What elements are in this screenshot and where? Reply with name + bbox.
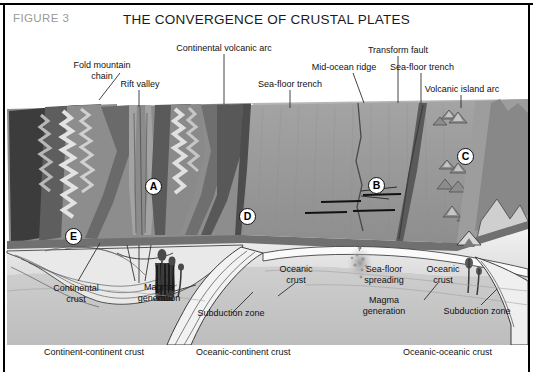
label-fold-mountain-chain: Fold mountain chain [62, 60, 142, 81]
label-transform-fault: Transform fault [348, 45, 448, 56]
label-volcanic-island-arc: Volcanic island arc [404, 84, 520, 95]
label-magma-generation-right: Magma generation [350, 295, 418, 316]
label-continent-continent-crust: Continent-continent crust [44, 347, 144, 358]
figure-title: THE CONVERGENCE OF CRUSTAL PLATES [0, 12, 533, 27]
label-sea-floor-spreading: Sea-floor spreading [350, 264, 418, 285]
label-rift-valley: Rift valley [109, 79, 171, 90]
label-oceanic-continent-crust: Oceanic-continent crust [196, 347, 291, 358]
marker-b[interactable]: B [368, 177, 385, 194]
label-oceanic-oceanic-crust: Oceanic-oceanic crust [403, 347, 492, 358]
label-continental-crust: Continental crust [38, 283, 114, 304]
label-subduction-zone-left: Subduction zone [177, 308, 285, 319]
marker-c[interactable]: C [457, 148, 474, 165]
marker-e[interactable]: E [65, 228, 82, 245]
label-subduction-zone-right: Subduction zone [423, 306, 531, 317]
frame-border-right [528, 3, 530, 372]
label-magma-generation-left: Magma generation [125, 282, 193, 303]
marker-a[interactable]: A [145, 178, 162, 195]
label-sea-floor-trench-right: Sea-floor trench [372, 62, 472, 73]
figure-container: FIGURE 3 THE CONVERGENCE OF CRUSTAL PLAT… [0, 0, 533, 372]
marker-d[interactable]: D [239, 208, 256, 225]
label-sea-floor-trench-left: Sea-floor trench [238, 79, 342, 90]
label-oceanic-crust-right: Oceanic crust [412, 264, 474, 285]
label-oceanic-crust-left: Oceanic crust [265, 264, 327, 285]
label-continental-volcanic-arc: Continental volcanic arc [161, 43, 287, 54]
rift-valley-feature [129, 105, 155, 235]
frame-border-top [0, 3, 533, 5]
